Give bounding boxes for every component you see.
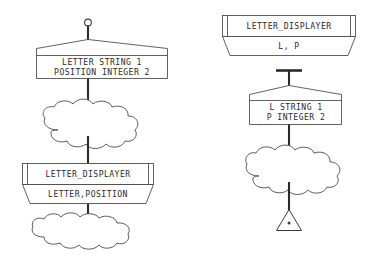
diagram-canvas: LETTER STRING 1 POSITION INTEGER 2 LETTE…	[0, 0, 368, 257]
right-module-name: LETTER_DISPLAYER	[246, 21, 331, 31]
left-data-box[interactable]: LETTER STRING 1 POSITION INTEGER 2	[37, 40, 168, 79]
right-tee-connector	[276, 71, 302, 87]
left-data-box-line1: LETTER STRING 1	[62, 57, 142, 67]
left-cloud-lower-shape	[32, 213, 129, 249]
diagram-svg: LETTER STRING 1 POSITION INTEGER 2 LETTE…	[0, 0, 368, 257]
left-module[interactable]: LETTER_DISPLAYER LETTER,POSITION	[23, 164, 154, 204]
triangle-terminator-icon	[277, 210, 302, 231]
right-data-box-line1: L STRING 1	[269, 102, 322, 112]
right-cloud[interactable]	[246, 145, 340, 194]
triangle-terminator-dot-icon	[288, 222, 291, 225]
left-ring-terminator[interactable]	[85, 19, 92, 40]
left-column-group: LETTER STRING 1 POSITION INTEGER 2 LETTE…	[23, 19, 168, 249]
right-module[interactable]: LETTER_DISPLAYER L, P	[223, 16, 356, 56]
left-data-box-line2: POSITION INTEGER 2	[54, 67, 150, 77]
right-cloud-shape	[246, 145, 340, 194]
left-module-name: LETTER_DISPLAYER	[45, 169, 130, 179]
left-cloud-lower[interactable]	[32, 213, 129, 249]
right-column-group: LETTER_DISPLAYER L, P L STRING 1 P INTEG…	[223, 16, 356, 231]
right-triangle-terminator[interactable]	[277, 210, 302, 231]
left-cloud-upper[interactable]	[43, 99, 138, 148]
ring-terminator-icon	[85, 19, 92, 26]
right-data-box-line2: P INTEGER 2	[267, 112, 326, 122]
left-module-params: LETTER,POSITION	[48, 189, 128, 199]
right-data-box[interactable]: L STRING 1 P INTEGER 2	[250, 86, 342, 125]
right-module-params: L, P	[278, 41, 299, 51]
left-cloud-upper-shape	[43, 99, 138, 148]
